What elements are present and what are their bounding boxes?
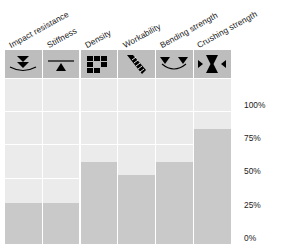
chart-column-bending-strength <box>156 50 193 244</box>
bar-track <box>118 79 155 244</box>
workability-chisel-tool-icon <box>118 50 155 78</box>
bending-two-down-triangles-curve-icon <box>156 50 193 78</box>
chart-column-workability <box>118 50 155 244</box>
material-property-rating-chart: Impact resistance Stiffness Density Work… <box>0 0 281 247</box>
chart-column-stiffness <box>43 50 80 244</box>
axis-tick-50: 50% <box>244 166 261 176</box>
bar-crushing-strength <box>194 129 231 245</box>
percentage-axis: 100% 75% 50% 25% 0% <box>240 50 281 244</box>
chart-column-impact-resistance <box>5 50 42 244</box>
bar-track <box>5 79 42 244</box>
bar-track <box>81 79 118 244</box>
axis-tick-25: 25% <box>244 200 261 210</box>
column-labels: Impact resistance Stiffness Density Work… <box>0 0 281 50</box>
column-label-density: Density <box>83 27 113 50</box>
stiffness-line-with-up-triangle-icon <box>43 50 80 78</box>
column-label-stiffness: Stiffness <box>45 25 78 50</box>
chart-column-density <box>81 50 118 244</box>
bar-workability <box>118 175 155 244</box>
bar-stiffness <box>43 203 80 244</box>
bar-bending-strength <box>156 162 193 245</box>
bar-impact-resistance <box>5 203 42 244</box>
impact-arrow-down-on-curve-icon <box>5 50 42 78</box>
bar-track <box>156 79 193 244</box>
chart-plot-area <box>5 50 238 244</box>
crushing-hourglass-inward-arrows-icon <box>194 50 231 78</box>
axis-tick-75: 75% <box>244 133 261 143</box>
bar-track <box>194 79 231 244</box>
chart-column-crushing-strength <box>194 50 231 244</box>
bar-track <box>43 79 80 244</box>
axis-tick-0: 0% <box>244 233 256 243</box>
axis-tick-100: 100% <box>244 100 265 110</box>
bar-density <box>81 162 118 245</box>
density-block-squares-icon <box>81 50 118 78</box>
column-label-workability: Workability <box>121 21 162 50</box>
